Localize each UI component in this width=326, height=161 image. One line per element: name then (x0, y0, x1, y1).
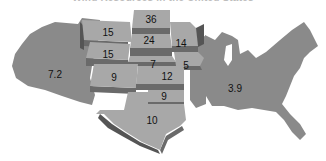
label-iowa: 5 (183, 60, 189, 71)
label-west: 7.2 (48, 69, 62, 80)
label-montana: 15 (102, 27, 114, 38)
label-kansas: 12 (161, 71, 173, 82)
label-oklahoma: 9 (161, 91, 167, 102)
us-wind-map: 7.2 3.9 15 36 24 14 15 7 5 9 12 9 10 (0, 0, 326, 161)
label-wyoming: 15 (102, 49, 114, 60)
state-iowa (174, 52, 204, 66)
region-east (204, 22, 318, 140)
label-texas: 10 (146, 115, 158, 126)
label-nebraska: 7 (150, 59, 156, 70)
label-minnesota: 14 (175, 38, 187, 49)
label-east: 3.9 (228, 83, 242, 94)
state-kansas (136, 66, 184, 84)
state-north-dakota-side (132, 28, 170, 34)
label-colorado: 9 (111, 72, 117, 83)
state-kansas-side (136, 84, 184, 90)
label-north-dakota: 36 (145, 14, 157, 25)
label-south-dakota: 24 (143, 35, 155, 46)
